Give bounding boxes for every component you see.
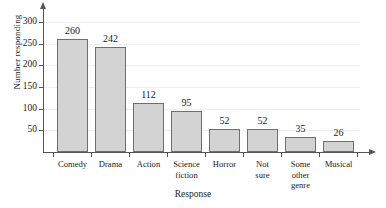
category-label-line: Musical — [316, 159, 361, 170]
bar — [323, 141, 354, 152]
x-axis-tick-mark — [91, 153, 92, 157]
bar-value-label: 26 — [317, 128, 360, 138]
y-axis-tick-label: 200 — [7, 60, 37, 70]
bar — [285, 137, 316, 152]
bar-chart: Number responding 50100150200250300 2602… — [0, 0, 386, 208]
bar-value-label: 52 — [203, 116, 246, 126]
y-axis-tick-mark — [39, 87, 44, 88]
bar-value-label: 242 — [89, 34, 132, 44]
bar — [95, 47, 126, 152]
bar — [247, 129, 278, 152]
y-axis-tick-mark — [39, 22, 44, 23]
x-axis-tick-mark — [53, 153, 54, 157]
gridline — [44, 22, 360, 23]
category-label-line: fiction — [164, 170, 209, 181]
x-axis-tick-mark — [243, 153, 244, 157]
x-axis-tick-mark — [281, 153, 282, 157]
x-axis-tick-mark — [357, 153, 358, 157]
bar-value-label: 112 — [127, 90, 170, 100]
y-axis-tick-mark — [39, 44, 44, 45]
x-axis-tick-mark — [319, 153, 320, 157]
x-axis-title: Response — [0, 189, 386, 199]
bar — [171, 111, 202, 152]
y-axis-tick-label: 50 — [7, 125, 37, 135]
x-axis-tick-mark — [167, 153, 168, 157]
bar — [209, 129, 240, 152]
gridline — [44, 87, 360, 88]
x-axis-arrow-icon — [369, 149, 376, 155]
x-axis-category-label: Musical — [316, 159, 361, 170]
y-axis-tick-mark — [39, 109, 44, 110]
x-axis-tick-mark — [129, 153, 130, 157]
bar-value-label: 52 — [241, 116, 284, 126]
bar — [57, 39, 88, 152]
y-axis-tick-label: 150 — [7, 82, 37, 92]
y-axis-tick-label: 300 — [7, 17, 37, 27]
bar-value-label: 260 — [51, 26, 94, 36]
y-axis-tick-mark — [39, 65, 44, 66]
bar — [133, 103, 164, 152]
bar-value-label: 35 — [279, 124, 322, 134]
category-label-line: other — [278, 170, 323, 181]
y-axis-tick-mark — [39, 130, 44, 131]
y-axis-arrow-icon — [40, 2, 46, 9]
gridline — [44, 65, 360, 66]
y-axis-tick-label: 100 — [7, 104, 37, 114]
gridline — [44, 109, 360, 110]
y-axis-tick-label: 250 — [7, 39, 37, 49]
x-axis-tick-mark — [205, 153, 206, 157]
bar-value-label: 95 — [165, 98, 208, 108]
